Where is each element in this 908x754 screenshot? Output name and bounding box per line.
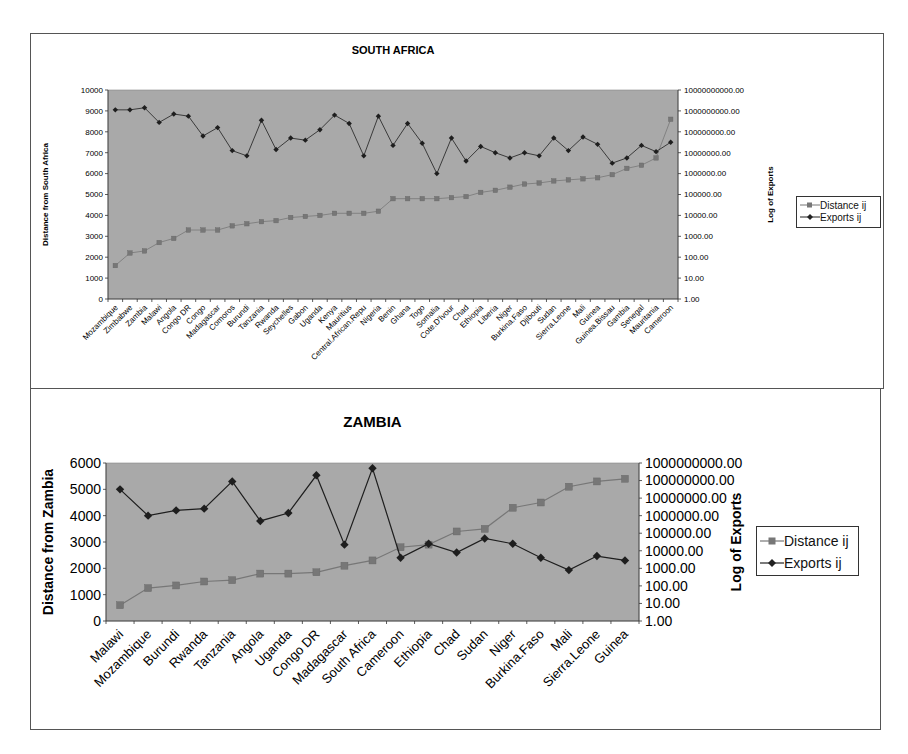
square-marker-icon (593, 478, 600, 485)
y-tick-label: 7000 (85, 149, 103, 158)
y2-tick-label: 10000000.00 (645, 490, 727, 506)
chart-zambia-plot: ZAMBIA01000200030004000500060001.0010.00… (31, 389, 882, 731)
y2-tick-label: 1000000000.00 (645, 455, 743, 471)
square-marker-icon (369, 557, 376, 564)
square-marker-icon (313, 569, 320, 576)
square-marker-icon (274, 218, 279, 223)
square-marker-icon (610, 172, 615, 177)
y2-tick-label: 10000.00 (684, 211, 718, 220)
y2-tick-label: 1.00 (684, 295, 700, 304)
y2-tick-label: 10.00 (645, 595, 680, 611)
y2-tick-label: 1000000000.00 (684, 107, 740, 116)
square-marker-icon (318, 213, 323, 218)
y2-axis-title: Log of Exports (766, 166, 775, 223)
chart-title: ZAMBIA (343, 413, 401, 430)
square-marker-icon (230, 224, 235, 229)
y2-tick-label: 1000.00 (684, 232, 713, 241)
y-tick-label: 0 (93, 613, 101, 629)
square-marker-icon (595, 176, 600, 181)
legend-item-distance: Distance ij (760, 530, 855, 552)
legend-item-distance: Distance ij (800, 199, 877, 211)
y2-tick-label: 1.00 (645, 613, 672, 629)
legend-south-africa: Distance ij Exports ij (796, 196, 881, 228)
square-marker-icon (117, 602, 124, 609)
square-marker-icon (128, 251, 133, 256)
y-tick-label: 5000 (70, 481, 101, 497)
y-tick-label: 5000 (85, 190, 103, 199)
square-marker-icon (259, 219, 264, 224)
y2-tick-label: 10000000000.00 (684, 86, 745, 95)
y-tick-label: 6000 (70, 455, 101, 471)
y-tick-label: 0 (99, 295, 104, 304)
y2-axis-title: Log of Exports (728, 492, 744, 591)
chart-title: SOUTH AFRICA (352, 44, 435, 56)
y-tick-label: 3000 (70, 534, 101, 550)
y-tick-label: 9000 (85, 107, 103, 116)
y2-tick-label: 100000000.00 (645, 472, 735, 488)
plot-area (106, 463, 639, 621)
square-marker-icon (760, 534, 784, 548)
chart-south-africa: SOUTH AFRICA0100020003000400050006000700… (30, 33, 884, 389)
square-marker-icon (186, 228, 191, 233)
square-marker-icon (142, 249, 147, 254)
square-marker-icon (639, 163, 644, 168)
y-tick-label: 2000 (85, 253, 103, 262)
square-marker-icon (481, 525, 488, 532)
y2-tick-label: 100000.00 (684, 190, 722, 199)
square-marker-icon (145, 585, 152, 592)
y2-tick-label: 100.00 (684, 253, 709, 262)
square-marker-icon (508, 185, 513, 190)
y2-tick-label: 100000.00 (645, 525, 711, 541)
y2-tick-label: 1000000.00 (684, 169, 727, 178)
square-marker-icon (173, 582, 180, 589)
square-marker-icon (362, 211, 367, 216)
square-marker-icon (288, 215, 293, 220)
square-marker-icon (285, 570, 292, 577)
square-marker-icon (565, 483, 572, 490)
square-marker-icon (464, 194, 469, 199)
y-tick-label: 4000 (85, 211, 103, 220)
square-marker-icon (537, 499, 544, 506)
square-marker-icon (800, 199, 820, 211)
square-marker-icon (435, 196, 440, 201)
square-marker-icon (522, 182, 527, 187)
y-tick-label: 4000 (70, 508, 101, 524)
square-marker-icon (157, 240, 162, 245)
square-marker-icon (341, 562, 348, 569)
legend-item-exports: Exports ij (800, 211, 877, 223)
y2-tick-label: 1000000.00 (645, 508, 719, 524)
y-axis-title: Distance from Zambia (40, 469, 56, 615)
chart-south-africa-plot: SOUTH AFRICA0100020003000400050006000700… (31, 34, 885, 390)
y2-tick-label: 10.00 (684, 274, 705, 283)
square-marker-icon (257, 570, 264, 577)
square-marker-icon (537, 181, 542, 186)
diamond-marker-icon (760, 556, 784, 570)
square-marker-icon (654, 156, 659, 161)
square-marker-icon (376, 209, 381, 214)
square-marker-icon (668, 117, 673, 122)
y-tick-label: 6000 (85, 169, 103, 178)
legend-label-exports: Exports ij (784, 552, 842, 574)
chart-zambia: ZAMBIA01000200030004000500060001.0010.00… (30, 388, 881, 730)
square-marker-icon (332, 211, 337, 216)
square-marker-icon (493, 188, 498, 193)
square-marker-icon (113, 263, 118, 268)
square-marker-icon (303, 214, 308, 219)
y2-tick-label: 10000.00 (645, 543, 704, 559)
y-tick-label: 1000 (70, 587, 101, 603)
square-marker-icon (245, 222, 250, 227)
y-tick-label: 3000 (85, 232, 103, 241)
square-marker-icon (552, 179, 557, 184)
square-marker-icon (478, 190, 483, 195)
legend-item-exports: Exports ij (760, 552, 855, 574)
legend-label-distance: Distance ij (820, 200, 866, 211)
y-tick-label: 2000 (70, 560, 101, 576)
legend-label-distance: Distance ij (784, 530, 849, 552)
square-marker-icon (453, 528, 460, 535)
y2-tick-label: 100000000.00 (684, 128, 736, 137)
square-marker-icon (566, 178, 571, 183)
square-marker-icon (201, 578, 208, 585)
y2-tick-label: 1000.00 (645, 560, 696, 576)
square-marker-icon (581, 177, 586, 182)
y-tick-label: 1000 (85, 274, 103, 283)
